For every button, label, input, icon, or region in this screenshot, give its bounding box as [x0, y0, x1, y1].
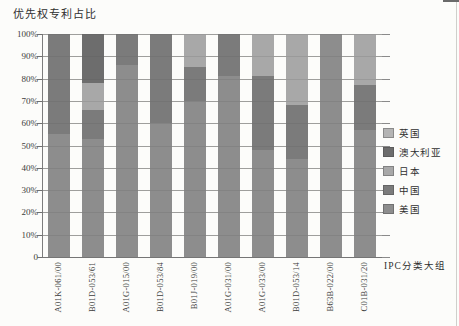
- legend-item: 英国: [383, 126, 441, 140]
- y-axis-tick-right: [382, 257, 390, 258]
- legend-label: 中国: [399, 183, 420, 197]
- x-axis-tick-label: C01B-031/20: [359, 262, 369, 312]
- y-axis-tick-label: 100%: [0, 29, 38, 39]
- y-axis-tick-right: [382, 56, 390, 57]
- chart-title: 优先权专利占比: [13, 5, 97, 21]
- grid-line-overlay: [42, 235, 382, 236]
- legend-swatch-icon: [383, 147, 394, 157]
- bar-segment: [48, 34, 70, 134]
- y-axis-tick-label: 30%: [0, 185, 38, 195]
- legend-label: 日本: [399, 164, 420, 178]
- bar-segment: [218, 34, 240, 76]
- x-axis-tick-label: B01J-019/00: [189, 262, 199, 309]
- grid-line-overlay: [42, 190, 382, 191]
- bar-segment: [116, 65, 138, 257]
- x-axis-tick-label: B01D-053/61: [87, 262, 97, 312]
- bar-segment: [82, 34, 104, 83]
- grid-line-overlay: [42, 123, 382, 124]
- legend-swatch-icon: [383, 185, 394, 195]
- legend-label: 英国: [399, 126, 420, 140]
- grid-line-overlay: [42, 34, 382, 35]
- y-axis-tick-label: 60%: [0, 118, 38, 128]
- bar-segment: [184, 101, 206, 257]
- grid-line-overlay: [42, 168, 382, 169]
- chart-figure: 优先权专利占比 100%90%80%70%60%50%40%30%20%10%0…: [0, 0, 459, 326]
- y-axis-tick-label: 50%: [0, 141, 38, 151]
- bar-segment: [252, 34, 274, 76]
- legend-item: 美国: [383, 202, 441, 216]
- bar-segment: [82, 110, 104, 139]
- x-axis-tick-label: B01D-053/84: [155, 262, 165, 312]
- legend-swatch-icon: [383, 166, 394, 176]
- grid-line-overlay: [42, 257, 382, 258]
- page-edge-artifact: [456, 0, 457, 326]
- legend: 英国澳大利亚日本中国美国: [383, 126, 441, 221]
- y-axis-tick-label: 80%: [0, 74, 38, 84]
- bar-segment: [252, 150, 274, 257]
- x-axis-tick-label: A01G-033/00: [257, 262, 267, 313]
- page-corner-artifact: [443, 0, 459, 2]
- grid-line-overlay: [42, 146, 382, 147]
- grid-line-overlay: [42, 56, 382, 57]
- y-axis-tick-right: [382, 34, 390, 35]
- x-axis-tick-label: B63B-022/00: [325, 262, 335, 312]
- bar-segment: [116, 34, 138, 65]
- y-axis-tick-label: 20%: [0, 207, 38, 217]
- x-axis-tick-label: A01K-061/00: [53, 262, 63, 313]
- y-axis-tick-right: [382, 79, 390, 80]
- bar-segment: [48, 134, 70, 257]
- legend-item: 中国: [383, 183, 441, 197]
- bar-segment: [354, 34, 376, 85]
- x-axis-tick-label: B01D-053/14: [291, 262, 301, 312]
- y-axis-tick-right: [382, 101, 390, 102]
- x-axis-tick-label: A01G-015/00: [121, 262, 131, 313]
- bar-segment: [286, 34, 308, 105]
- grid-line-overlay: [42, 212, 382, 213]
- legend-label: 澳大利亚: [399, 145, 441, 159]
- bar-segment: [82, 83, 104, 110]
- y-axis-tick-right: [382, 235, 390, 236]
- y-axis-tick-right: [382, 123, 390, 124]
- legend-swatch-icon: [383, 204, 394, 214]
- legend-swatch-icon: [383, 128, 394, 138]
- grid-line-overlay: [42, 79, 382, 80]
- bar-segment: [218, 76, 240, 257]
- y-axis-tick-label: 0: [0, 252, 38, 262]
- bar-segment: [184, 67, 206, 100]
- bar-segment: [286, 105, 308, 159]
- bar-segment: [184, 34, 206, 67]
- bar-segment: [252, 76, 274, 150]
- x-axis-tick-label: A01G-031/00: [223, 262, 233, 313]
- bar-segment: [354, 130, 376, 257]
- bar-segment: [286, 159, 308, 257]
- bar-segment: [82, 139, 104, 257]
- x-axis-title: IPC分类大组: [384, 258, 446, 272]
- legend-item: 日本: [383, 164, 441, 178]
- y-axis-tick-label: 40%: [0, 163, 38, 173]
- y-axis-tick-label: 70%: [0, 96, 38, 106]
- y-axis-tick-label: 90%: [0, 51, 38, 61]
- y-axis-tick-label: 10%: [0, 230, 38, 240]
- grid-line-overlay: [42, 101, 382, 102]
- legend-item: 澳大利亚: [383, 145, 441, 159]
- legend-label: 美国: [399, 202, 420, 216]
